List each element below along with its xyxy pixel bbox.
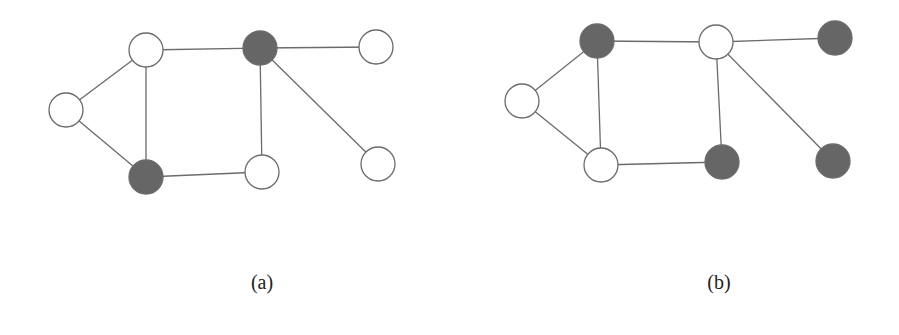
node-b6-dark [818,21,852,55]
edge-b4-b5 [716,42,722,162]
edge-b4-b7 [716,42,833,161]
node-a7-white [361,147,395,181]
edge-a4-a5 [260,48,262,172]
caption-a: (a) [251,271,273,294]
caption-b: (b) [707,271,730,294]
node-b2-white [505,84,539,118]
node-a1-white [129,33,163,67]
node-a4-dark [243,31,277,65]
node-b5-dark [705,145,739,179]
node-a3-dark [129,160,163,194]
edge-b1-b4 [597,41,716,42]
edge-b4-b6 [716,38,835,42]
node-a2-white [49,93,83,127]
graph-a [49,30,395,194]
node-b4-white [699,25,733,59]
graph-b [505,21,852,182]
node-b1-dark [580,24,614,58]
node-b3-white [584,148,618,182]
node-a5-white [245,155,279,189]
graph-figure [0,0,899,335]
edge-b3-b5 [601,162,722,165]
node-b7-dark [816,144,850,178]
edge-a4-a7 [260,48,378,164]
edge-b1-b3 [597,41,601,165]
node-a6-white [359,30,393,64]
